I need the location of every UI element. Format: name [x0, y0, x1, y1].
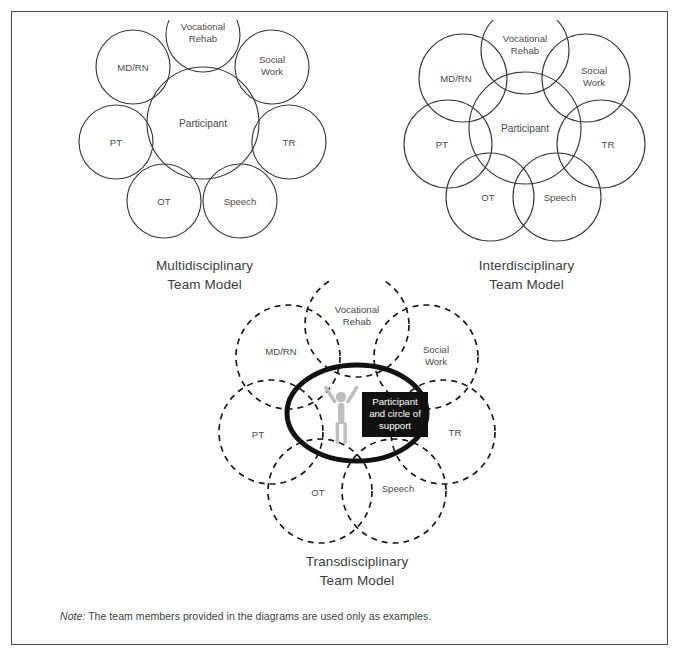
- label-vocational-rehab-line2: Rehab: [189, 33, 217, 44]
- label-social-work-line1: Social: [581, 65, 607, 76]
- label-speech: Speech: [382, 483, 415, 494]
- label-pt: PT: [436, 139, 448, 150]
- figure-note: Note: The team members provided in the d…: [60, 610, 431, 622]
- caption-transdisciplinary-line2: Team Model: [202, 571, 512, 590]
- circle-md-rn: [236, 305, 340, 409]
- label-ot: OT: [157, 196, 170, 207]
- circle-vocational-rehab: [305, 280, 409, 377]
- label-md-rn: MD/RN: [265, 346, 297, 357]
- label-speech: Speech: [544, 192, 577, 203]
- participant-box-line3: support: [379, 420, 411, 431]
- caption-transdisciplinary-line1: Transdisciplinary: [202, 552, 512, 571]
- label-ot: OT: [481, 192, 494, 203]
- figure-note-label: Note:: [60, 610, 85, 622]
- label-social-work-line1: Social: [423, 344, 449, 355]
- figure-frame: Participant Vocational Rehab Social Work…: [11, 11, 668, 645]
- caption-transdisciplinary: Transdisciplinary Team Model: [202, 552, 512, 590]
- label-social-work-line2: Work: [583, 77, 605, 88]
- caption-multidisciplinary-line1: Multidisciplinary: [72, 256, 337, 275]
- label-social-work-line1: Social: [259, 54, 285, 65]
- label-ot: OT: [311, 487, 324, 498]
- label-tr: TR: [449, 427, 462, 438]
- label-md-rn: MD/RN: [440, 73, 472, 84]
- label-speech: Speech: [224, 196, 257, 207]
- label-vocational-rehab-line1: Vocational: [503, 33, 547, 44]
- label-md-rn: MD/RN: [117, 62, 149, 73]
- participant-box-line2: and circle of: [369, 408, 421, 419]
- label-social-work-line2: Work: [261, 66, 283, 77]
- label-tr: TR: [283, 137, 296, 148]
- diagram-transdisciplinary: Participant and circle of support Vocati…: [202, 280, 512, 590]
- caption-interdisciplinary-line1: Interdisciplinary: [394, 256, 659, 275]
- diagram-interdisciplinary: Participant Vocational Rehab Social Work…: [394, 20, 659, 290]
- label-vocational-rehab-line2: Rehab: [343, 316, 371, 327]
- label-vocational-rehab-line1: Vocational: [181, 21, 225, 32]
- participant-box-line1: Participant: [372, 396, 418, 407]
- figure-note-text: The team members provided in the diagram…: [85, 610, 431, 622]
- multidisciplinary-svg: Participant Vocational Rehab Social Work…: [72, 20, 337, 242]
- label-social-work-line2: Work: [425, 356, 447, 367]
- person-figure-icon: [323, 385, 359, 444]
- circle-pt: [219, 380, 323, 484]
- circle-vocational-rehab: [481, 20, 569, 94]
- label-vocational-rehab-line2: Rehab: [511, 45, 539, 56]
- diagram-multidisciplinary: Participant Vocational Rehab Social Work…: [72, 20, 337, 290]
- label-participant: Participant: [501, 123, 549, 134]
- label-vocational-rehab-line1: Vocational: [335, 304, 379, 315]
- label-pt: PT: [110, 137, 122, 148]
- interdisciplinary-svg: Participant Vocational Rehab Social Work…: [394, 20, 659, 242]
- label-pt: PT: [252, 429, 264, 440]
- transdisciplinary-svg: Participant and circle of support Vocati…: [202, 280, 512, 550]
- label-participant: Participant: [179, 118, 227, 129]
- label-tr: TR: [602, 139, 615, 150]
